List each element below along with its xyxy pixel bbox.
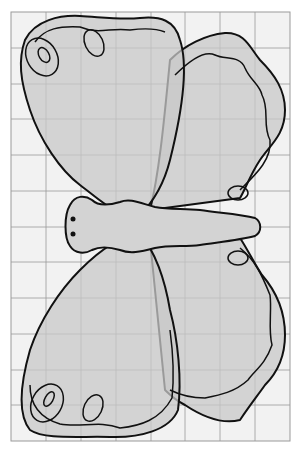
- butterfly-grid-illustration: [0, 0, 296, 449]
- eye-dot-left: [71, 217, 76, 222]
- eye-dot-right: [71, 232, 76, 237]
